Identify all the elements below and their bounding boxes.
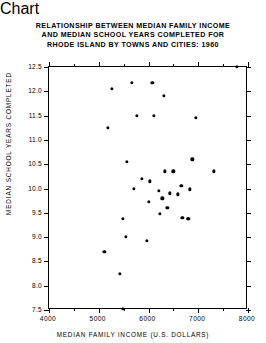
data-point <box>124 235 127 238</box>
y-tick <box>246 67 251 68</box>
x-tick <box>149 308 150 313</box>
x-tick <box>149 62 150 67</box>
x-tick-label: 6000 <box>139 315 155 322</box>
x-tick-label: 8000 <box>239 315 255 322</box>
data-point <box>162 95 165 98</box>
y-tick-label: 12.0 <box>16 87 42 94</box>
y-tick <box>44 286 49 287</box>
x-minor-tick <box>124 64 125 67</box>
x-minor-tick <box>173 308 174 311</box>
y-tick <box>44 213 49 214</box>
data-point <box>118 272 121 275</box>
x-minor-tick <box>173 64 174 67</box>
y-tick <box>246 261 251 262</box>
y-tick <box>44 164 49 165</box>
data-point <box>163 170 166 173</box>
data-point <box>191 158 194 161</box>
data-point <box>145 239 148 242</box>
y-axis-title: MEDIAN SCHOOL YEARS COMPLETED <box>5 19 12 269</box>
data-point <box>172 170 175 173</box>
data-point <box>187 217 190 220</box>
chart-figure: RELATIONSHIP BETWEEN MEDIAN FAMILY INCOM… <box>0 18 266 343</box>
x-tick <box>248 62 249 67</box>
x-tick <box>99 308 100 313</box>
y-tick <box>44 91 49 92</box>
y-tick <box>246 91 251 92</box>
x-tick <box>198 62 199 67</box>
data-point <box>194 116 197 119</box>
data-point <box>168 192 171 195</box>
y-tick <box>246 164 251 165</box>
data-point <box>180 184 183 187</box>
data-point <box>125 160 128 163</box>
data-point <box>103 250 106 253</box>
y-tick <box>246 140 251 141</box>
y-tick-label: 7.5 <box>16 306 42 313</box>
data-point <box>213 170 216 173</box>
data-point <box>130 81 133 84</box>
x-minor-tick <box>223 308 224 311</box>
y-tick <box>44 189 49 190</box>
y-tick <box>44 140 49 141</box>
y-tick-label: 8.0 <box>16 281 42 288</box>
data-point <box>181 216 184 219</box>
x-tick <box>99 62 100 67</box>
data-point <box>110 87 113 90</box>
y-tick <box>246 213 251 214</box>
x-tick-label: 5000 <box>90 315 106 322</box>
x-minor-tick <box>223 64 224 67</box>
x-minor-tick <box>74 64 75 67</box>
data-point <box>151 81 154 84</box>
y-tick <box>44 67 49 68</box>
chart-title-line-3: RHODE ISLAND BY TOWNS AND CITIES: 1960 <box>0 41 266 50</box>
chart-title: RELATIONSHIP BETWEEN MEDIAN FAMILY INCOM… <box>0 22 266 50</box>
x-tick-label: 4000 <box>40 315 56 322</box>
chart-title-line-2: AND MEDIAN SCHOOL YEARS COMPLETED FOR <box>0 31 266 40</box>
data-point <box>106 126 109 129</box>
y-tick-label: 11.0 <box>16 135 42 142</box>
plot-area <box>48 66 247 309</box>
x-minor-tick <box>74 308 75 311</box>
y-tick <box>44 261 49 262</box>
x-tick <box>248 308 249 313</box>
data-point <box>157 189 160 192</box>
x-tick <box>49 62 50 67</box>
y-tick-label: 9.5 <box>16 208 42 215</box>
data-point <box>158 212 161 215</box>
data-point <box>132 187 135 190</box>
y-tick-label: 8.5 <box>16 257 42 264</box>
x-tick <box>49 308 50 313</box>
y-tick <box>246 286 251 287</box>
data-point <box>152 114 155 117</box>
y-tick <box>246 116 251 117</box>
data-point <box>140 177 143 180</box>
y-tick-label: 10.0 <box>16 184 42 191</box>
y-tick-label: 11.5 <box>16 111 42 118</box>
y-tick-label: 12.5 <box>16 63 42 70</box>
chart-title-line-1: RELATIONSHIP BETWEEN MEDIAN FAMILY INCOM… <box>0 22 266 31</box>
data-point <box>166 206 169 209</box>
data-point <box>161 197 164 200</box>
x-tick-label: 7000 <box>189 315 205 322</box>
data-point <box>121 217 124 220</box>
data-point <box>148 180 151 183</box>
data-point <box>235 65 238 68</box>
x-tick <box>198 308 199 313</box>
y-tick <box>246 237 251 238</box>
y-tick <box>246 189 251 190</box>
x-axis-title: MEDIAN FAMILY INCOME (U.S. DOLLARS) <box>0 331 266 338</box>
y-tick <box>44 116 49 117</box>
y-tick-label: 10.5 <box>16 160 42 167</box>
data-point <box>135 114 138 117</box>
data-point <box>147 200 150 203</box>
y-tick-label: 9.0 <box>16 233 42 240</box>
y-tick <box>44 237 49 238</box>
data-point <box>188 188 191 191</box>
data-point <box>176 193 179 196</box>
